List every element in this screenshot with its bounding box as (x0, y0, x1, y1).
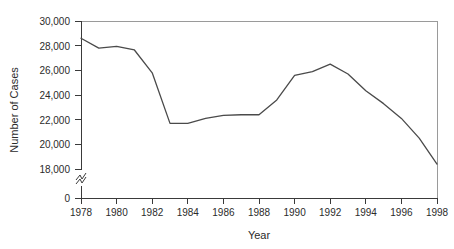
y-tick-label-zero: 0 (64, 193, 70, 204)
y-tick-label-28000: 28,000 (39, 41, 70, 52)
y-tick-marks (75, 21, 81, 198)
x-tick-label-1992: 1992 (319, 207, 342, 218)
y-tick-label-20000: 20,000 (39, 139, 70, 150)
y-axis-title: Number of Cases (8, 67, 20, 153)
y-tick-label-24000: 24,000 (39, 90, 70, 101)
x-tick-label-1986: 1986 (212, 207, 235, 218)
x-axis-title: Year (248, 229, 271, 241)
y-tick-label-26000: 26,000 (39, 65, 70, 76)
x-tick-label-1982: 1982 (141, 207, 164, 218)
x-tick-label-1984: 1984 (177, 207, 200, 218)
x-tick-label-1978: 1978 (70, 207, 93, 218)
plot-frame (81, 21, 437, 198)
y-tick-label-30000: 30,000 (39, 16, 70, 27)
y-tick-label-22000: 22,000 (39, 115, 70, 126)
x-tick-label-1994: 1994 (355, 207, 378, 218)
data-series-line (81, 38, 437, 164)
x-tick-marks (81, 198, 437, 204)
x-tick-label-1980: 1980 (105, 207, 128, 218)
y-tick-label-18000: 18,000 (39, 164, 70, 175)
x-tick-label-1990: 1990 (283, 207, 306, 218)
x-tick-label-1998: 1998 (426, 207, 449, 218)
x-tick-label-1996: 1996 (390, 207, 413, 218)
line-chart: 30,000 28,000 26,000 24,000 22,000 20,00… (0, 0, 454, 249)
chart-canvas: 30,000 28,000 26,000 24,000 22,000 20,00… (0, 0, 454, 249)
x-tick-label-1988: 1988 (248, 207, 271, 218)
